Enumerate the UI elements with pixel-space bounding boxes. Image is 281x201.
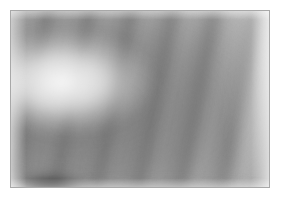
white-fade-layer <box>11 11 269 187</box>
blurred-grayscale-photo <box>11 11 269 187</box>
image-page <box>0 0 281 201</box>
image-frame <box>10 10 270 188</box>
